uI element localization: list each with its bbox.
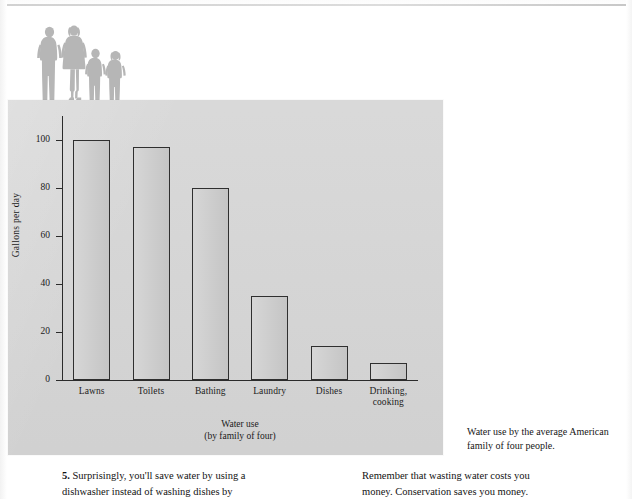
page-top-rule [0, 4, 632, 6]
x-axis-category-label-line-1: Bathing [195, 386, 226, 396]
body-right-line-1: Remember that wasting water costs you [362, 470, 530, 481]
adult-woman-silhouette [61, 26, 87, 101]
x-axis-title-sub: (by family of four) [204, 431, 276, 441]
figure-caption: Water use by the average American family… [467, 425, 627, 452]
y-axis-tick-label: 0 [45, 374, 50, 384]
page-left-edge [0, 0, 7, 499]
bar [311, 346, 348, 380]
x-axis-category-label: Toilets [121, 386, 180, 397]
y-axis-tick-label: 100 [36, 134, 50, 144]
bar-shading [371, 364, 406, 379]
y-axis-tick-label: 60 [41, 230, 51, 240]
body-left-line-1: Surprisingly, you'll save water by using… [73, 470, 246, 481]
chart-panel: 020406080100 Gallons per day LawnsToilet… [8, 100, 443, 455]
y-axis-title: Gallons per day [11, 155, 21, 295]
y-axis-tick-mark [56, 284, 62, 285]
adult-man-silhouette [37, 27, 62, 101]
list-number: 5. [62, 470, 70, 481]
y-axis-tick: 20 [8, 332, 62, 333]
y-axis-tick-mark [56, 188, 62, 189]
bar [251, 296, 288, 380]
body-left-line-2: dishwasher instead of washing dishes by [62, 484, 312, 499]
bar [192, 188, 229, 380]
bar-shading [312, 347, 347, 379]
family-of-four-silhouette-illustration [33, 24, 133, 102]
x-axis-category-label: Laundry [240, 386, 299, 397]
y-axis-tick-label: 20 [41, 326, 51, 336]
x-axis-category-label-line-1: Dishes [316, 386, 342, 396]
x-axis-category-label: Bathing [181, 386, 240, 397]
x-axis-category-label: Dishes [299, 386, 358, 397]
y-axis-tick-mark [56, 380, 62, 381]
bar [73, 140, 110, 380]
bar-shading [74, 141, 109, 379]
bar-shading [252, 297, 287, 379]
x-axis-category-label: Drinking,cooking [359, 386, 418, 408]
x-axis-title: Water use (by family of four) [62, 418, 418, 442]
y-axis-tick: 100 [8, 140, 62, 141]
y-axis-tick-mark [56, 236, 62, 237]
bar-chart-plot-area: 020406080100 Gallons per day LawnsToilet… [8, 100, 443, 455]
x-axis-category-label-line-1: Lawns [79, 386, 105, 396]
child-one-silhouette [85, 49, 106, 102]
x-axis-category-label-line-1: Toilets [138, 386, 164, 396]
x-axis-category-label-line-1: Laundry [253, 386, 286, 396]
x-axis-title-main: Water use [221, 419, 258, 429]
y-axis-tick-mark [56, 332, 62, 333]
y-axis-tick-mark [56, 140, 62, 141]
y-axis-line [62, 116, 63, 381]
bar-shading [134, 148, 169, 379]
body-column-right: Remember that wasting water costs you mo… [362, 468, 622, 499]
x-axis-line [62, 380, 418, 381]
y-axis-tick: 0 [8, 380, 62, 381]
body-right-line-2: money. Conservation saves you money. [362, 484, 622, 499]
body-text-columns: 5. Surprisingly, you'll save water by us… [62, 468, 622, 499]
body-column-left: 5. Surprisingly, you'll save water by us… [62, 468, 312, 499]
x-axis-category-label-line-1: Drinking, [370, 386, 408, 396]
x-axis-category-label-line-2: cooking [373, 397, 404, 407]
child-two-silhouette [105, 51, 125, 102]
y-axis-tick-label: 80 [41, 182, 51, 192]
bar-shading [193, 189, 228, 379]
bar [133, 147, 170, 380]
x-axis-category-label: Lawns [62, 386, 121, 397]
y-axis-tick-label: 40 [41, 278, 51, 288]
bar [370, 363, 407, 380]
